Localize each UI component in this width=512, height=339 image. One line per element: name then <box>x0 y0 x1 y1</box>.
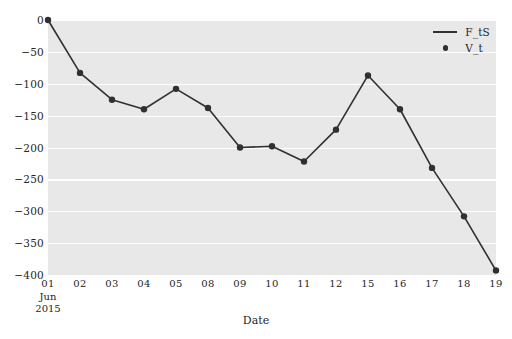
data-point-marker <box>77 70 83 76</box>
data-point-marker <box>173 86 179 92</box>
x-axis-label: Date <box>0 314 512 327</box>
legend-label-v-t: V_t <box>465 42 483 54</box>
y-tick-label: 0 <box>0 14 44 26</box>
x-tick-label: 09 <box>233 278 246 289</box>
chart-figure: 0−50−100−150−200−250−300−350−400 F_tS V_… <box>0 0 512 339</box>
y-tick-label: −50 <box>0 46 44 58</box>
y-tick-label: −350 <box>0 237 44 249</box>
data-point-marker <box>205 105 211 111</box>
legend-item-v-t: V_t <box>432 42 490 54</box>
data-point-marker <box>461 213 467 219</box>
x-tick-label: 15 <box>361 278 374 289</box>
x-tick-label: 12 <box>329 278 342 289</box>
data-point-marker <box>237 144 243 150</box>
gridline <box>48 275 496 276</box>
data-point-marker <box>429 165 435 171</box>
x-axis-sub-label-group: Jun2015 <box>35 291 60 314</box>
x-tick-label: 01 <box>41 278 54 289</box>
legend-dot-swatch <box>432 45 458 51</box>
data-series-v-t <box>48 20 496 275</box>
data-point-marker <box>301 158 307 164</box>
x-tick-label: 17 <box>425 278 438 289</box>
x-tick-label: 03 <box>105 278 118 289</box>
legend-item-f-ts: F_tS <box>432 26 490 38</box>
y-axis-tick-labels: 0−50−100−150−200−250−300−350−400 <box>0 20 44 275</box>
y-tick-label: −300 <box>0 205 44 217</box>
x-tick-label: 08 <box>201 278 214 289</box>
data-point-marker <box>365 72 371 78</box>
x-tick-label: 02 <box>73 278 86 289</box>
x-tick-label: 19 <box>489 278 502 289</box>
y-tick-label: −400 <box>0 269 44 281</box>
y-tick-label: −100 <box>0 78 44 90</box>
plot-area <box>48 20 496 275</box>
y-tick-label: −200 <box>0 142 44 154</box>
x-tick-label: 05 <box>169 278 182 289</box>
data-point-marker <box>269 143 275 149</box>
data-point-marker <box>493 267 499 273</box>
x-tick-label: 10 <box>265 278 278 289</box>
y-tick-label: −150 <box>0 110 44 122</box>
legend-line-swatch <box>432 31 458 33</box>
data-point-marker <box>141 106 147 112</box>
x-tick-label: 16 <box>393 278 406 289</box>
x-tick-label: 18 <box>457 278 470 289</box>
chart-legend: F_tS V_t <box>428 24 494 56</box>
x-axis-sub-label: 2015 <box>35 303 60 315</box>
data-point-marker <box>397 106 403 112</box>
legend-label-f-ts: F_tS <box>465 26 490 38</box>
x-tick-label: 04 <box>137 278 150 289</box>
data-point-marker <box>45 17 51 23</box>
data-point-marker <box>109 96 115 102</box>
data-point-marker <box>333 126 339 132</box>
y-tick-label: −250 <box>0 173 44 185</box>
x-axis-sub-label: Jun <box>35 291 60 303</box>
x-tick-label: 11 <box>297 278 310 289</box>
